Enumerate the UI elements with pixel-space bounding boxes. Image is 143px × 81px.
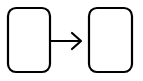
arrow-connector — [50, 33, 81, 49]
flow-diagram — [0, 0, 143, 81]
left-box — [8, 8, 50, 72]
right-box — [89, 8, 132, 72]
